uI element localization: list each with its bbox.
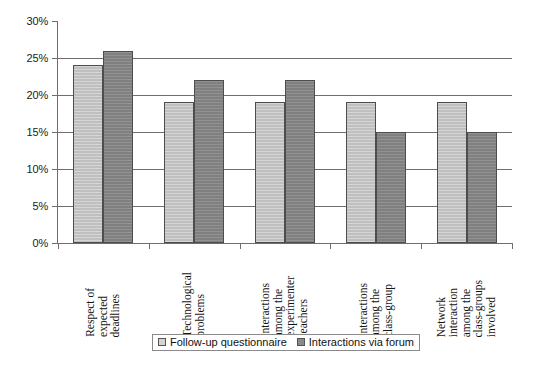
- chart-legend: Follow-up questionnaireInteractions via …: [152, 334, 420, 351]
- legend-swatch-icon: [158, 338, 166, 346]
- category-label-word: Technological: [182, 272, 194, 337]
- x-axis-line: [58, 243, 513, 244]
- category-label-word: involved: [486, 297, 498, 337]
- category-label: Interactionsamong theclass-group: [330, 249, 421, 337]
- category-label-word: deadlines: [110, 294, 122, 337]
- category-label-word: Respect of: [85, 288, 97, 337]
- bar-group: [58, 21, 149, 243]
- y-axis-tick-mark: [52, 243, 58, 244]
- category-label-word: teachers: [298, 299, 310, 337]
- category-label-word: among the: [461, 289, 473, 337]
- y-axis-tick-mark: [52, 132, 58, 133]
- category-label: Technologicalproblems: [149, 249, 240, 337]
- y-axis-tick-mark: [52, 169, 58, 170]
- bar-group: [421, 21, 512, 243]
- bar-chart: 30%25%20%15%10%5%0% Respect ofexpectedde…: [0, 0, 534, 369]
- legend-label: Follow-up questionnaire: [170, 336, 287, 348]
- legend-swatch-icon: [297, 338, 305, 346]
- category-label-word: Interactions: [358, 283, 370, 337]
- y-axis-tick-label: 5%: [33, 200, 49, 212]
- y-axis-tick-label: 15%: [27, 126, 48, 138]
- y-axis-tick-label: 0%: [33, 237, 49, 249]
- category-label-word: expected: [98, 296, 110, 337]
- bar: [467, 132, 497, 243]
- legend-item: Follow-up questionnaire: [158, 336, 287, 348]
- category-label-word: experimenter: [285, 276, 297, 337]
- legend-label: Interactions via forum: [309, 336, 414, 348]
- category-label-word: among the: [273, 289, 285, 337]
- y-axis-tick-label: 30%: [27, 15, 48, 27]
- category-label-word: among the: [370, 289, 382, 337]
- y-axis-tick-labels: 30%25%20%15%10%5%0%: [0, 0, 48, 369]
- y-axis-tick-mark: [52, 206, 58, 207]
- category-label-word: class-groups: [473, 280, 485, 338]
- category-label-word: problems: [195, 294, 207, 337]
- bar: [346, 102, 376, 243]
- bar-group: [330, 21, 421, 243]
- bar-group: [240, 21, 331, 243]
- bar: [103, 51, 133, 243]
- bar: [437, 102, 467, 243]
- category-label: Respect ofexpecteddeadlines: [58, 249, 149, 337]
- y-axis-tick-mark: [52, 58, 58, 59]
- bar: [376, 132, 406, 243]
- x-axis-category-labels: Respect ofexpecteddeadlinesTechnological…: [58, 249, 513, 339]
- y-axis-tick-mark: [52, 95, 58, 96]
- bar: [73, 65, 103, 243]
- legend-item: Interactions via forum: [297, 336, 414, 348]
- y-axis-tick-label: 20%: [27, 89, 48, 101]
- bar: [194, 80, 224, 243]
- plot-area: [58, 21, 512, 243]
- bar-group: [149, 21, 240, 243]
- category-label: Interactionsamong theexperimenterteacher…: [240, 249, 331, 337]
- y-axis-tick-mark: [52, 21, 58, 22]
- bar: [255, 102, 285, 243]
- y-axis-tick-label: 10%: [27, 163, 48, 175]
- bar: [164, 102, 194, 243]
- category-label: Networkinteractionamong theclass-groupsi…: [421, 249, 512, 337]
- bar: [285, 80, 315, 243]
- category-label-word: class-group: [383, 284, 395, 337]
- y-axis-tick-label: 25%: [27, 52, 48, 64]
- category-label-word: interaction: [448, 288, 460, 337]
- category-label-word: Network: [436, 297, 448, 337]
- category-label-word: Interactions: [260, 283, 272, 337]
